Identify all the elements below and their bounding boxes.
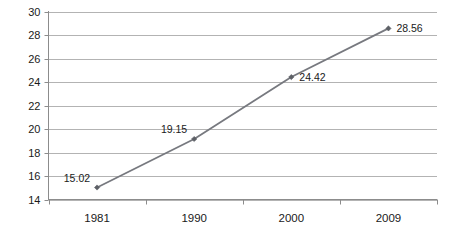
gridlines-group: [49, 13, 438, 201]
x-axis-tick-labels: 1981199020002009: [84, 212, 401, 224]
y-axis-tick-label: 30: [28, 6, 40, 18]
y-axis-tick-label: 22: [28, 100, 40, 112]
x-axis-tick-label: 1981: [84, 212, 110, 224]
line-chart: 141618202224262830 1981199020002009 15.0…: [0, 0, 451, 245]
data-series-line: [97, 28, 388, 187]
y-axis-tick-label: 26: [28, 53, 40, 65]
y-axis-tick-label: 16: [28, 170, 40, 182]
y-tick-marks-group: [45, 13, 49, 201]
data-point-labels-group: 15.0219.1524.4228.56: [64, 22, 423, 183]
x-axis-tick-label: 2009: [376, 212, 402, 224]
data-point-label: 15.02: [64, 172, 90, 184]
y-axis-tick-labels: 141618202224262830: [28, 6, 40, 206]
y-axis-tick-label: 28: [28, 29, 40, 41]
x-axis-tick-label: 2000: [279, 212, 305, 224]
y-axis-tick-label: 20: [28, 123, 40, 135]
data-point-label: 24.42: [299, 71, 325, 83]
y-axis-tick-label: 24: [28, 76, 40, 88]
data-point-label: 19.15: [161, 123, 187, 135]
data-point-label: 28.56: [396, 22, 422, 34]
x-axis-tick-label: 1990: [181, 212, 207, 224]
y-axis-tick-label: 14: [28, 194, 40, 206]
chart-canvas: 141618202224262830 1981199020002009 15.0…: [0, 0, 451, 245]
y-axis-tick-label: 18: [28, 147, 40, 159]
